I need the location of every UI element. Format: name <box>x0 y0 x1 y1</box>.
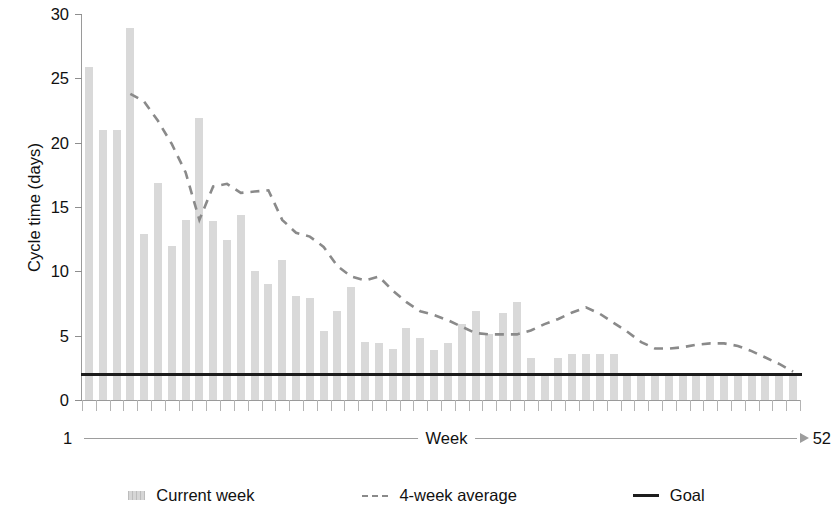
x-axis-tick <box>565 400 566 411</box>
bar <box>333 311 341 400</box>
bar <box>113 130 121 400</box>
x-axis-tick <box>220 400 221 411</box>
x-axis-tick <box>482 400 483 411</box>
bar <box>320 331 328 400</box>
bar <box>775 374 783 400</box>
legend-item-current-week: Current week <box>128 486 254 505</box>
bar <box>458 324 466 400</box>
x-axis-tick <box>496 400 497 411</box>
x-axis-tick <box>759 400 760 411</box>
y-axis-tick-label: 15 <box>51 198 69 217</box>
x-axis-arrow-icon <box>800 433 809 443</box>
bar <box>706 374 714 400</box>
x-axis-tick <box>690 400 691 411</box>
y-axis-tick <box>75 271 82 272</box>
bar <box>734 374 742 400</box>
x-axis-tick <box>579 400 580 411</box>
legend-item-goal: Goal <box>633 486 705 505</box>
y-axis-tick-label: 20 <box>51 133 69 152</box>
bar <box>679 374 687 400</box>
bar <box>154 183 162 400</box>
x-axis-tick <box>469 400 470 411</box>
x-axis-tick <box>524 400 525 411</box>
chart-legend: Current week 4-week average Goal <box>0 486 833 505</box>
y-axis-title: Cycle time (days) <box>25 78 44 338</box>
y-axis-tick <box>75 400 82 401</box>
bar <box>361 342 369 400</box>
y-axis-tick-label: 0 <box>60 391 69 410</box>
y-axis-tick-label: 30 <box>51 5 69 24</box>
x-axis-tick <box>607 400 608 411</box>
bar <box>237 215 245 400</box>
x-axis-tick <box>772 400 773 411</box>
legend-label-current-week: Current week <box>156 486 254 505</box>
bar <box>568 354 576 400</box>
x-axis-end-label: 52 <box>813 429 831 448</box>
x-axis-tick <box>372 400 373 411</box>
bar <box>623 374 631 400</box>
x-axis-tick <box>621 400 622 411</box>
four-week-average-line <box>82 14 800 400</box>
bar <box>637 374 645 400</box>
x-axis-tick <box>137 400 138 411</box>
x-axis-tick <box>441 400 442 411</box>
solid-line-swatch-icon <box>633 494 659 497</box>
x-axis-tick <box>317 400 318 411</box>
x-axis-tick <box>206 400 207 411</box>
x-axis-tick <box>344 400 345 411</box>
y-axis-tick <box>75 336 82 337</box>
legend-label-goal: Goal <box>670 486 705 505</box>
x-axis-tick <box>510 400 511 411</box>
bar <box>692 374 700 400</box>
x-axis-tick <box>551 400 552 411</box>
y-axis-tick <box>75 207 82 208</box>
bar <box>126 28 134 400</box>
bar <box>582 354 590 400</box>
x-axis-tick <box>151 400 152 411</box>
bar <box>541 374 549 400</box>
bar <box>251 271 259 400</box>
x-axis-tick <box>717 400 718 411</box>
x-axis-tick <box>648 400 649 411</box>
x-axis-tick <box>786 400 787 411</box>
bar <box>499 313 507 400</box>
cycle-time-chart-figure: Cycle time (days) 051015202530 1 Week 52… <box>0 0 833 516</box>
x-axis-tick <box>123 400 124 411</box>
bar <box>651 374 659 400</box>
x-axis-tick <box>662 400 663 411</box>
x-axis-tick <box>192 400 193 411</box>
bar <box>485 334 493 400</box>
bar <box>347 287 355 400</box>
x-axis-tick <box>800 400 801 411</box>
x-axis-caption: 1 Week 52 <box>60 424 833 452</box>
bar <box>292 296 300 400</box>
x-axis-tick <box>538 400 539 411</box>
bar <box>168 246 176 400</box>
bar <box>195 118 203 400</box>
x-axis-tick <box>289 400 290 411</box>
bar <box>610 354 618 400</box>
x-axis-tick <box>413 400 414 411</box>
bar <box>99 130 107 400</box>
x-axis-label: Week <box>418 429 476 448</box>
x-axis-tick <box>248 400 249 411</box>
bar <box>513 302 521 400</box>
bar <box>748 374 756 400</box>
bar <box>375 343 383 400</box>
x-axis-tick <box>303 400 304 411</box>
y-axis-tick-label: 10 <box>51 262 69 281</box>
bar <box>596 354 604 400</box>
bar <box>264 284 272 400</box>
bar <box>665 374 673 400</box>
x-axis-tick <box>179 400 180 411</box>
x-axis-tick <box>82 400 83 411</box>
x-axis-tick <box>703 400 704 411</box>
bar <box>789 376 797 400</box>
x-axis-tick <box>96 400 97 411</box>
bar <box>416 338 424 400</box>
y-axis-tick <box>75 14 82 15</box>
x-axis-tick <box>400 400 401 411</box>
x-axis-tick <box>676 400 677 411</box>
x-axis-tick <box>386 400 387 411</box>
bar <box>278 260 286 400</box>
